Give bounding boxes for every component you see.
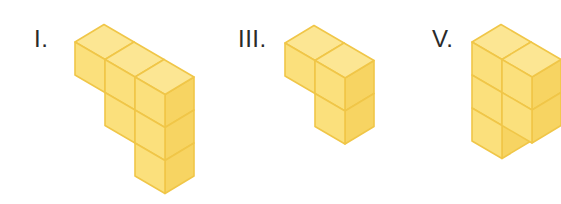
figure-canvas: I. III. V. <box>0 0 561 204</box>
figure-5 <box>472 25 561 159</box>
cube-figures <box>0 0 561 204</box>
figure-3 <box>285 26 374 145</box>
figure-1 <box>75 25 194 194</box>
